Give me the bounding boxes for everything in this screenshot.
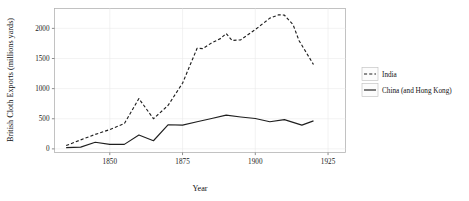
- plot-panel-border: [55, 9, 346, 153]
- y-tick-label-0: 0: [46, 145, 50, 153]
- x-axis-title: Year: [192, 184, 207, 193]
- x-tick-label-1: 1875: [175, 158, 190, 166]
- x-tick-label-0: 1850: [103, 158, 118, 166]
- y-axis-title: British Cloth Exports (millions yards): [6, 18, 15, 142]
- y-tick-label-4: 2000: [35, 25, 50, 33]
- y-tick-label-2: 1000: [35, 85, 50, 93]
- legend-label-1: China (and Hong Kong): [382, 87, 452, 95]
- x-tick-label-2: 1900: [248, 158, 263, 166]
- line-chart: 05001000150020001850187519001925 Year Br…: [0, 0, 469, 201]
- x-tick-label-3: 1925: [321, 158, 336, 166]
- y-tick-label-3: 1500: [35, 55, 50, 63]
- y-tick-label-1: 500: [39, 115, 50, 123]
- chart-container: 05001000150020001850187519001925 Year Br…: [0, 0, 469, 201]
- legend-label-0: India: [382, 71, 398, 79]
